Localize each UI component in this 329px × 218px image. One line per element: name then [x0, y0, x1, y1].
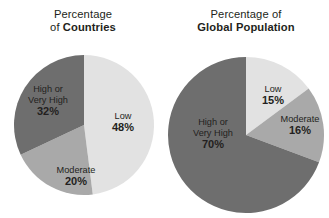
pie-slice-countries-low	[84, 55, 154, 194]
chart-panel-countries: Percentage of Countries Low 48% Moderate…	[0, 0, 166, 218]
pie-population	[163, 0, 329, 218]
pie-countries	[0, 0, 166, 218]
chart-panel-population: Percentage of Global Population Low 15% …	[163, 0, 329, 218]
pie-chart-figure: Percentage of Countries Low 48% Moderate…	[0, 0, 329, 218]
